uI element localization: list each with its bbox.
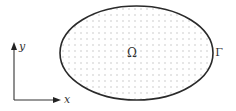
domain-diagram: Ω Γ y x: [0, 0, 236, 111]
gamma-label: Γ: [215, 46, 223, 59]
x-arrow-icon: [53, 97, 61, 103]
x-axis-label: x: [64, 93, 71, 106]
y-axis-label: y: [18, 40, 26, 53]
omega-label: Ω: [127, 46, 137, 60]
y-arrow-icon: [11, 42, 17, 50]
